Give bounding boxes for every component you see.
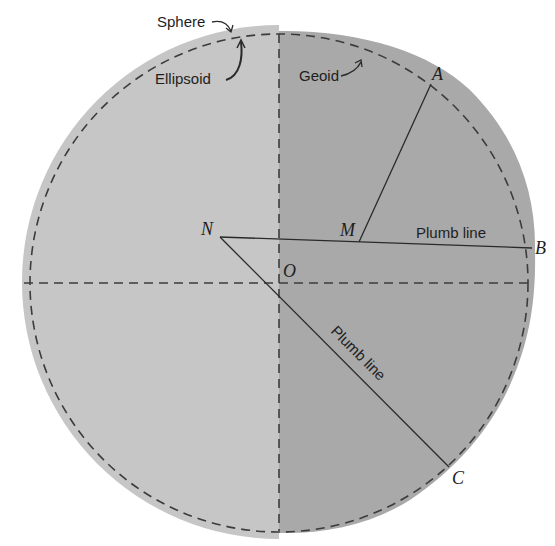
geoid-label: Geoid <box>299 67 339 84</box>
ellipsoid-label: Ellipsoid <box>155 70 211 87</box>
geodesy-diagram: Sphere Ellipsoid Geoid Plumb line Plumb … <box>0 0 555 546</box>
geoid-half-fill <box>279 31 535 533</box>
point-O-label: O <box>283 261 296 281</box>
point-N-label: N <box>200 219 214 239</box>
sphere-label: Sphere <box>157 13 205 30</box>
sphere-half-fill <box>22 25 279 539</box>
point-C-label: C <box>452 468 465 488</box>
point-A-label: A <box>431 64 444 84</box>
point-B-label: B <box>535 238 546 258</box>
point-M-label: M <box>339 220 356 240</box>
plumb-line-horizontal-label: Plumb line <box>416 224 486 241</box>
